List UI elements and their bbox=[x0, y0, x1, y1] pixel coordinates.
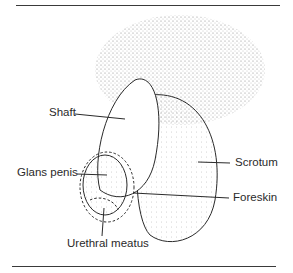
label-foreskin: Foreskin bbox=[233, 192, 277, 204]
anatomy-illustration bbox=[0, 0, 293, 273]
bottom-rule bbox=[12, 266, 276, 267]
label-glans: Glans penis bbox=[17, 167, 78, 179]
label-shaft: Shaft bbox=[49, 107, 76, 119]
label-scrotum: Scrotum bbox=[235, 157, 278, 169]
glans-shape bbox=[80, 152, 134, 222]
label-meatus: Urethral meatus bbox=[67, 238, 149, 250]
